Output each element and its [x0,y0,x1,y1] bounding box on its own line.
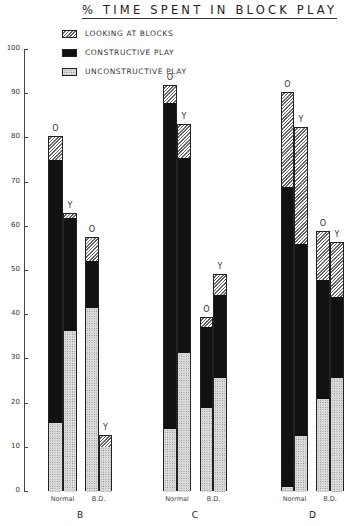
bar-mark-label: Y [294,115,308,124]
constructive-segment [317,280,329,399]
subgroup-label: Normal [157,495,197,503]
subgroup-label: B.D. [79,495,119,503]
looking-segment [295,128,307,245]
looking-segment [178,125,190,158]
y-tick [24,403,28,404]
constructive-segment [282,187,293,487]
y-tick-label: 40 [0,309,20,317]
bar-mark-label: O [281,80,295,89]
looking-segment [100,436,111,447]
looking-segment [214,275,226,295]
bar-mark-label: O [85,225,99,234]
y-tick-label: 0 [0,486,20,494]
y-tick-label: 10 [0,442,20,450]
bar-mark-label: Y [213,262,227,271]
unconstructive-segment [282,487,293,492]
unconstructive-segment [100,447,111,492]
bar-mark-label: Y [63,201,77,210]
y-tick-label: 60 [0,221,20,229]
bar-d-normal-y [294,127,308,491]
unconstructive-segment [317,399,329,492]
subgroup-label: B.D. [194,495,234,503]
constructive-segment [86,261,98,308]
legend-item-looking: LOOKING AT BLOCKS [62,25,187,42]
hatched-swatch-icon [62,30,77,38]
looking-segment [201,318,212,327]
y-tick [24,93,28,94]
y-tick [24,182,28,183]
y-tick-label: 90 [0,88,20,96]
bar-b-normal-o [48,136,63,491]
y-tick-label: 100 [0,44,20,52]
y-tick [24,270,28,271]
unconstructive-segment [331,378,343,492]
bar-c-bd-y [213,274,227,491]
legend-item-constructive: CONSTRUCTIVE PLAY [62,44,187,61]
y-tick [24,226,28,227]
y-tick [24,49,28,50]
looking-segment [331,243,343,297]
bar-c-bd-o [200,317,213,491]
bar-d-bd-y [330,242,344,491]
unconstructive-segment [178,353,190,492]
looking-segment [86,238,98,261]
subgroup-label: Normal [275,495,315,503]
looking-segment [49,137,62,161]
y-tick [24,137,28,138]
bar-mark-label: Y [99,423,113,432]
looking-segment [164,86,176,103]
y-tick [24,447,28,448]
legend-label: CONSTRUCTIVE PLAY [85,48,174,57]
unconstructive-segment [64,331,76,492]
bar-b-normal-y [63,213,77,491]
unconstructive-segment [86,308,98,492]
bar-c-normal-y [177,124,191,491]
dotted-swatch-icon [62,68,77,76]
constructive-segment [164,103,176,429]
bar-b-bd-o [85,237,99,491]
y-tick-label: 50 [0,265,20,273]
constructive-segment [201,327,212,408]
looking-segment [317,232,329,280]
y-tick-label: 30 [0,353,20,361]
chart-title: % TIME SPENT IN BLOCK PLAY [82,3,337,19]
group-label: D [303,510,323,520]
unconstructive-segment [214,378,226,492]
subgroup-label: Normal [43,495,83,503]
unconstructive-segment [201,408,212,492]
bar-d-bd-o [316,231,330,491]
y-tick-label: 80 [0,132,20,140]
constructive-segment [331,297,343,378]
subgroup-label: B.D. [310,495,350,503]
solid-swatch-icon [62,49,77,57]
y-tick [24,314,28,315]
bar-mark-label: O [200,305,214,314]
group-label: C [185,510,205,520]
bar-mark-label: O [163,73,177,82]
constructive-segment [295,244,307,435]
unconstructive-segment [164,429,176,492]
y-tick [24,491,28,492]
bar-mark-label: Y [330,230,344,239]
bar-mark-label: O [316,219,330,228]
bar-c-normal-o [163,85,177,491]
legend-label: LOOKING AT BLOCKS [85,29,173,38]
bar-mark-label: Y [177,112,191,121]
constructive-segment [178,158,190,353]
y-tick [24,358,28,359]
bar-b-bd-y [99,435,112,491]
bar-mark-label: O [49,124,63,133]
y-tick-label: 20 [0,398,20,406]
constructive-segment [49,160,62,423]
looking-segment [282,93,293,187]
unconstructive-segment [295,436,307,492]
y-tick-label: 70 [0,177,20,185]
group-label: B [70,510,90,520]
unconstructive-segment [49,423,62,492]
constructive-segment [214,295,226,378]
bar-d-normal-o [281,92,294,491]
constructive-segment [64,218,76,331]
